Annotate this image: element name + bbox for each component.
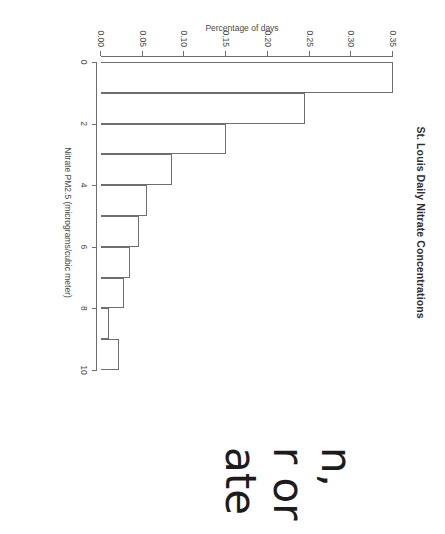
histogram-bar	[101, 93, 305, 124]
x-tick	[92, 247, 97, 248]
fragment-line-3: n,	[314, 447, 358, 487]
x-tick	[92, 62, 97, 63]
histogram-bar	[101, 278, 124, 309]
y-tick	[100, 51, 101, 56]
histogram-bar	[101, 124, 226, 155]
y-tick	[142, 51, 143, 56]
bottom-text-fragment: ate r or n,	[0, 445, 445, 534]
y-axis-line	[101, 56, 393, 57]
histogram-bar	[101, 154, 172, 185]
x-tick	[92, 308, 97, 309]
x-axis-label: Nitrate PM2.5 (micrograms/cubic meter)	[63, 0, 73, 445]
y-tick	[350, 51, 351, 56]
y-tick-label: 0.35	[388, 30, 398, 47]
histogram-bar	[101, 62, 393, 93]
fragment-line-1: ate	[218, 447, 262, 515]
histogram-bar	[101, 247, 130, 278]
y-axis-label: Percentage of days	[96, 23, 388, 33]
page-title: St. Louis Daily Nitrate Concentrations	[415, 0, 427, 445]
histogram-bar	[101, 308, 109, 339]
fragment-line-2: r or	[266, 447, 310, 521]
rotated-plot-wrapper: St. Louis Daily Nitrate Concentrations 0…	[0, 0, 445, 445]
plot-panel	[101, 62, 393, 370]
x-tick	[92, 185, 97, 186]
x-tick	[92, 370, 97, 371]
x-tick	[92, 124, 97, 125]
x-tick-label: 8	[79, 306, 89, 311]
y-tick	[183, 51, 184, 56]
x-tick-label: 4	[79, 183, 89, 188]
histogram-bar	[101, 339, 119, 370]
y-tick	[225, 51, 226, 56]
x-tick-label: 6	[79, 244, 89, 249]
histogram-plot: St. Louis Daily Nitrate Concentrations 0…	[0, 0, 445, 445]
y-tick	[267, 51, 268, 56]
x-axis-line	[96, 62, 97, 370]
x-tick-label: 10	[79, 365, 89, 374]
histogram-bar	[101, 185, 147, 216]
y-tick	[392, 51, 393, 56]
y-tick	[309, 51, 310, 56]
histogram-bars	[101, 62, 393, 370]
histogram-bar	[101, 216, 139, 247]
x-tick-label: 0	[79, 60, 89, 65]
x-tick-label: 2	[79, 121, 89, 126]
